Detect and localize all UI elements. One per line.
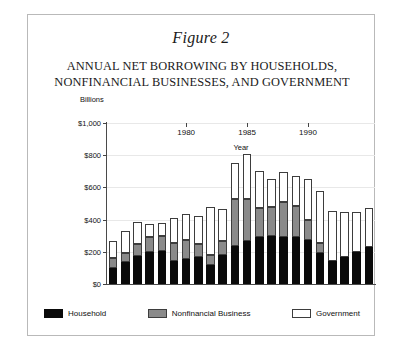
bar-segment-household <box>145 252 154 284</box>
x-tick-label: 1985 <box>238 128 256 137</box>
bar-segment-household <box>243 241 252 284</box>
legend-item: Nonfinancial Business <box>148 309 251 318</box>
bar-segment-government <box>352 212 361 252</box>
bar-segment-business <box>206 255 215 265</box>
bar-segment-household <box>340 257 349 284</box>
bar-segment-government <box>243 154 252 199</box>
y-tick-mark <box>103 187 107 188</box>
bar-segment-household <box>206 265 215 284</box>
bar-segment-government <box>328 211 337 261</box>
bar-segment-household <box>255 237 264 284</box>
gridline <box>107 187 375 188</box>
bar-segment-household <box>133 256 142 284</box>
figure-number: Figure 2 <box>28 29 374 47</box>
bar-segment-government <box>316 191 325 243</box>
x-tick-mark <box>308 123 309 127</box>
legend-label: Nonfinancial Business <box>172 309 251 318</box>
business-swatch <box>148 309 167 318</box>
bar-segment-household <box>267 236 276 284</box>
bar-segment-household <box>328 261 337 284</box>
x-tick-mark <box>247 123 248 127</box>
bar-segment-business <box>316 243 325 253</box>
bar-segment-business <box>231 199 240 246</box>
figure-title: ANNUAL NET BORROWING BY HOUSEHOLDS, NONF… <box>36 59 368 90</box>
bar-segment-government <box>267 179 276 207</box>
bar-segment-government <box>292 176 301 206</box>
bar-segment-household <box>170 261 179 284</box>
y-tick-mark <box>103 284 107 285</box>
bar-segment-household <box>304 240 313 284</box>
bar-segment-business <box>304 220 313 240</box>
x-tick-mark <box>186 123 187 127</box>
y-tick-label: $400 <box>84 216 101 225</box>
bar-segment-business <box>158 236 167 251</box>
legend-item: Household <box>44 309 106 318</box>
y-tick-label: $200 <box>84 248 101 257</box>
bar-segment-business <box>109 258 118 268</box>
bar-segment-government <box>121 231 130 253</box>
bar-segment-business <box>243 199 252 241</box>
y-tick-mark <box>103 155 107 156</box>
bar-segment-business <box>194 244 203 258</box>
bar-segment-business <box>182 240 191 259</box>
x-axis-line <box>106 284 376 285</box>
bar-segment-business <box>218 241 227 255</box>
x-axis-title: Year <box>107 143 375 152</box>
bar-segment-government <box>145 224 154 238</box>
chart-legend: HouseholdNonfinancial BusinessGovernment <box>38 306 366 320</box>
y-tick-mark <box>103 220 107 221</box>
figure-title-line-2: NONFINANCIAL BUSINESSES, AND GOVERNMENT <box>36 75 368 91</box>
household-swatch <box>44 309 63 318</box>
bar-segment-household <box>182 259 191 284</box>
bar-segment-household <box>218 255 227 284</box>
y-tick-label: $800 <box>84 151 101 160</box>
bar-segment-business <box>255 208 264 238</box>
figure-title-line-1: ANNUAL NET BORROWING BY HOUSEHOLDS, <box>36 59 368 75</box>
y-tick-label: $1,000 <box>78 119 101 128</box>
figure-frame: Figure 2 ANNUAL NET BORROWING BY HOUSEHO… <box>27 14 375 336</box>
legend-label: Government <box>316 309 360 318</box>
bar-segment-government <box>182 214 191 240</box>
bar-segment-government <box>255 171 264 208</box>
bar-segment-household <box>292 237 301 284</box>
bar-segment-government <box>279 172 288 202</box>
y-tick-mark <box>103 123 107 124</box>
bar-segment-household <box>316 253 325 284</box>
bar-segment-government <box>218 209 227 241</box>
bar-segment-household <box>352 252 361 284</box>
bar-segment-household <box>121 262 130 284</box>
bar-segment-business <box>292 206 301 237</box>
y-tick-label: $0 <box>93 280 101 289</box>
bar-segment-household <box>231 246 240 284</box>
y-axis-unit-label: Billions <box>80 95 104 104</box>
gridline <box>107 123 375 124</box>
bar-segment-government <box>109 241 118 258</box>
bar-segment-business <box>133 244 142 256</box>
bar-segment-government <box>194 216 203 244</box>
government-swatch <box>292 309 311 318</box>
bar-segment-government <box>133 222 142 244</box>
bar-segment-household <box>109 268 118 284</box>
gridline <box>107 155 375 156</box>
bar-segment-business <box>145 237 154 251</box>
bar-segment-household <box>365 247 374 284</box>
bar-segment-government <box>365 208 374 247</box>
legend-label: Household <box>68 309 106 318</box>
bar-segment-government <box>170 218 179 243</box>
bar-segment-government <box>231 163 240 199</box>
x-tick-label: 1990 <box>299 128 317 137</box>
bar-segment-household <box>194 257 203 284</box>
bar-segment-household <box>158 251 167 284</box>
x-tick-label: 1980 <box>177 128 195 137</box>
bar-segment-household <box>279 237 288 284</box>
bar-segment-business <box>121 253 130 263</box>
legend-item: Government <box>292 309 360 318</box>
chart-plot-area: Billions $0$200$400$600$800$1,000 198019… <box>81 109 381 284</box>
bar-segment-government <box>206 207 215 255</box>
y-tick-label: $600 <box>84 183 101 192</box>
chart-bars-container: $0$200$400$600$800$1,000 198019851990 Ye… <box>107 123 375 284</box>
bar-segment-government <box>340 212 349 257</box>
bar-segment-business <box>279 202 288 237</box>
bar-segment-government <box>158 223 167 236</box>
bar-segment-business <box>170 243 179 261</box>
